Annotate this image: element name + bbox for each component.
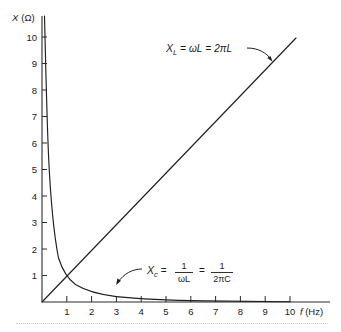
annotation-inductive-equals-2: = [205, 43, 211, 54]
y-axis-group: 10 9 8 7 6 5 4 3 2 1 X(Ω) [11, 12, 47, 302]
x-axis-title: f(Hz) [300, 306, 323, 317]
annotation-capacitive-text: Xc= [146, 264, 167, 279]
annotation-inductive-term-2: 2πL [213, 43, 232, 54]
y-tick-label-2: 2 [32, 244, 37, 255]
y-axis-title-variable: X [11, 12, 19, 23]
annotation-capacitive-fraction-2: 1 2πC [211, 261, 233, 284]
annotation-capacitive-equals-1: = [161, 265, 167, 276]
x-tick-label-1: 1 [64, 306, 69, 317]
annotation-inductive-term-1: ωL [189, 43, 202, 54]
annotation-inductive-equals-1: = [180, 43, 186, 54]
annotation-inductive: XL=ωL=2πL [165, 42, 273, 62]
x-axis-tick-labels: 1 2 3 4 5 6 7 8 9 10 [64, 306, 295, 317]
x-tick-label-2: 2 [89, 306, 94, 317]
annotation-capacitive: Xc= 1 ωL = 1 2πC [116, 261, 233, 285]
x-tick-label-7: 7 [213, 306, 218, 317]
series-inductive-reactance [42, 38, 296, 302]
y-tick-label-3: 3 [32, 217, 37, 228]
x-tick-label-4: 4 [139, 306, 144, 317]
x-tick-label-9: 9 [263, 306, 268, 317]
series-capacitive-reactance [45, 16, 291, 302]
reactance-vs-frequency-figure: 10 9 8 7 6 5 4 3 2 1 X(Ω) [0, 0, 341, 332]
inductive-reactance-line [42, 38, 296, 302]
annotation-inductive-subscript: L [173, 48, 177, 57]
annotation-capacitive-subscript: c [154, 270, 158, 279]
x-tick-label-6: 6 [188, 306, 193, 317]
annotation-inductive-leader-line [247, 48, 271, 59]
x-tick-label-3: 3 [114, 306, 119, 317]
annotation-capacitive-frac1-denominator: ωL [178, 274, 190, 284]
y-axis-title-unit: (Ω) [21, 12, 34, 23]
x-tick-label-5: 5 [163, 306, 168, 317]
x-axis-group: 1 2 3 4 5 6 7 8 9 10 f(Hz) [42, 296, 330, 317]
page-separator-rule [16, 323, 328, 325]
x-axis-title-unit: (Hz) [305, 306, 323, 317]
y-tick-label-6: 6 [32, 138, 37, 149]
y-tick-label-8: 8 [32, 85, 37, 96]
y-tick-label-9: 9 [32, 58, 37, 69]
y-axis-tick-labels: 10 9 8 7 6 5 4 3 2 1 [26, 32, 37, 282]
y-tick-label-4: 4 [32, 191, 37, 202]
x-tick-label-10: 10 [285, 306, 296, 317]
chart-svg: 10 9 8 7 6 5 4 3 2 1 X(Ω) [0, 0, 341, 332]
y-axis-title: X(Ω) [11, 12, 35, 23]
annotation-inductive-text: XL=ωL=2πL [165, 42, 232, 57]
x-tick-label-8: 8 [238, 306, 243, 317]
annotation-capacitive-frac2-denominator: 2πC [213, 274, 231, 284]
y-tick-label-5: 5 [32, 164, 37, 175]
annotation-capacitive-equals-2: = [199, 265, 205, 276]
y-tick-label-1: 1 [32, 270, 37, 281]
annotation-inductive-arrowhead [267, 56, 272, 62]
x-axis-title-variable: f [300, 306, 304, 317]
annotation-capacitive-fraction-1: 1 ωL [175, 261, 193, 284]
capacitive-reactance-curve [45, 16, 291, 302]
annotation-capacitive-frac2-numerator: 1 [219, 261, 224, 271]
annotation-capacitive-leader-line [118, 269, 142, 282]
y-tick-label-10: 10 [26, 32, 37, 43]
y-tick-label-7: 7 [32, 111, 37, 122]
annotation-capacitive-frac1-numerator: 1 [181, 261, 186, 271]
